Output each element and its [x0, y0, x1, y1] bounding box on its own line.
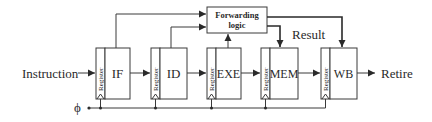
forwarding-label-line1: Forwarding — [215, 10, 259, 20]
clock-junction-if — [99, 107, 102, 110]
stage-label-wb: WB — [334, 67, 353, 81]
stage-if: Register IF — [96, 48, 130, 99]
instruction-label: Instruction — [22, 66, 79, 81]
forwarding-logic: Forwarding logic — [207, 7, 267, 33]
stage-label-if: IF — [112, 66, 124, 81]
stage-wb: Register WB — [321, 48, 357, 99]
forwarding-to-mem-line — [267, 26, 280, 47]
register-label-exe: Register — [208, 67, 216, 91]
id-to-forwarding-line — [171, 27, 206, 48]
clock-label: ϕ — [74, 100, 81, 115]
stage-label-mem: MEM — [270, 67, 299, 81]
register-label-if: Register — [97, 67, 105, 91]
clock-junction-id — [154, 107, 157, 110]
stage-label-id: ID — [167, 66, 181, 81]
stage-exe: Register EXE — [207, 48, 241, 99]
stage-mem: Register MEM — [261, 48, 299, 99]
clock-junction-exe — [210, 107, 213, 110]
stage-id: Register ID — [151, 48, 187, 99]
forwarding-label-line2: logic — [229, 20, 246, 30]
pipeline-diagram: Instruction Register IF Register ID Regi… — [0, 0, 432, 122]
clock-junction-mem — [264, 107, 267, 110]
stage-label-exe: EXE — [217, 67, 240, 81]
result-label: Result — [292, 27, 326, 42]
register-label-wb: Register — [322, 67, 330, 91]
retire-label: Retire — [381, 66, 413, 81]
register-label-id: Register — [152, 67, 160, 91]
if-to-forwarding-line — [116, 14, 206, 48]
clock-line — [89, 99, 326, 108]
